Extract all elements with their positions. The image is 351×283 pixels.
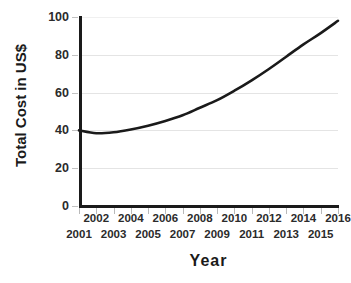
x-tick-label-2014: 2014	[291, 212, 317, 224]
y-tick-label-100: 100	[38, 10, 74, 24]
x-tick-mark-2007	[183, 207, 184, 214]
series-total-cost-path	[79, 21, 338, 134]
x-tick-label-2012: 2012	[256, 212, 282, 224]
x-tick-label-2009: 2009	[204, 228, 230, 240]
x-tick-label-2006: 2006	[153, 212, 179, 224]
y-tick-mark-40	[72, 130, 78, 131]
line-chart: Total Cost in US$ 020406080100 200120022…	[0, 0, 351, 283]
x-tick-label-2013: 2013	[273, 228, 299, 240]
y-axis-tick-labels: 020406080100	[38, 0, 74, 283]
x-axis-line	[79, 205, 339, 208]
x-tick-mark-2015	[321, 207, 322, 214]
y-tick-label-40: 40	[38, 123, 74, 137]
data-line-series	[79, 17, 338, 206]
y-tick-mark-60	[72, 93, 78, 94]
y-tick-label-0: 0	[38, 199, 74, 213]
x-tick-label-2015: 2015	[308, 228, 334, 240]
y-tick-mark-100	[72, 17, 78, 18]
y-tick-mark-20	[72, 168, 78, 169]
x-tick-label-2003: 2003	[101, 228, 127, 240]
x-tick-label-2001: 2001	[66, 228, 92, 240]
y-axis-title: Total Cost in US$	[6, 0, 36, 210]
y-tick-mark-80	[72, 55, 78, 56]
y-tick-label-80: 80	[38, 48, 74, 62]
x-tick-label-2010: 2010	[222, 212, 248, 224]
x-tick-mark-2011	[252, 207, 253, 214]
y-axis-title-text: Total Cost in US$	[13, 43, 30, 166]
plot-area	[79, 17, 338, 206]
x-tick-label-2008: 2008	[187, 212, 213, 224]
x-tick-mark-2013	[286, 207, 287, 214]
y-tick-label-20: 20	[38, 161, 74, 175]
y-tick-mark-0	[72, 206, 78, 207]
x-tick-label-2004: 2004	[118, 212, 144, 224]
x-tick-mark-2001	[79, 207, 80, 214]
x-tick-mark-2005	[148, 207, 149, 214]
x-tick-label-2002: 2002	[83, 212, 109, 224]
x-tick-label-2007: 2007	[170, 228, 196, 240]
x-tick-label-2011: 2011	[239, 228, 264, 240]
x-tick-label-2016: 2016	[325, 212, 351, 224]
x-axis-title: Year	[79, 252, 338, 270]
x-tick-label-2005: 2005	[135, 228, 161, 240]
x-tick-mark-2003	[114, 207, 115, 214]
x-tick-mark-2009	[217, 207, 218, 214]
y-axis-line	[79, 16, 82, 207]
y-tick-label-60: 60	[38, 86, 74, 100]
